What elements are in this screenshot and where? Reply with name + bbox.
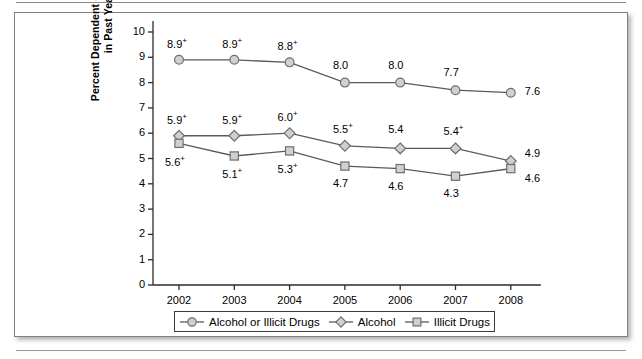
data-point-label: 8.0 (333, 59, 348, 71)
data-point-label: 7.7 (444, 66, 459, 78)
y-tick-label: 7 (109, 101, 145, 113)
legend-item-diamond: Alcohol (328, 315, 396, 329)
y-tick-label: 4 (109, 177, 145, 189)
x-tick-label: 2006 (374, 294, 426, 306)
y-tick-label: 9 (109, 50, 145, 62)
x-tick-label: 2004 (264, 294, 316, 306)
circle-marker-icon (179, 315, 205, 329)
data-point-label: 5.9+ (222, 112, 242, 126)
y-tick-label: 2 (109, 227, 145, 239)
legend-label: Alcohol or Illicit Drugs (209, 316, 320, 328)
data-point-label: 8.9+ (222, 36, 242, 50)
legend-label: Alcohol (358, 316, 396, 328)
data-point-label: 4.6 (525, 172, 540, 184)
diamond-marker-icon (328, 315, 354, 329)
page-rule-bottom (16, 350, 626, 351)
legend-item-circle: Alcohol or Illicit Drugs (179, 315, 320, 329)
legend-item-square: Illicit Drugs (404, 315, 490, 329)
data-point-label: 4.3 (444, 187, 459, 199)
data-point-label: 5.6+ (165, 154, 185, 168)
data-point-label: 4.6 (388, 180, 403, 192)
data-point-label: 5.5+ (333, 121, 353, 135)
x-tick-label: 2007 (430, 294, 482, 306)
y-tick-label: 3 (109, 202, 145, 214)
data-point-label: 8.9+ (167, 36, 187, 50)
data-point-label: 4.9 (525, 147, 540, 159)
data-point-label: 5.4 (388, 123, 403, 135)
square-marker-icon (404, 315, 430, 329)
data-point-label: 7.6 (525, 85, 540, 97)
x-tick-label: 2002 (153, 294, 205, 306)
x-tick-label: 2005 (319, 294, 371, 306)
data-point-label: 6.0+ (278, 109, 298, 123)
legend-label: Illicit Drugs (434, 316, 490, 328)
x-tick-label: 2003 (208, 294, 260, 306)
y-tick-label: 6 (109, 126, 145, 138)
data-point-label: 4.7 (333, 177, 348, 189)
data-point-label: 5.1+ (222, 166, 242, 180)
data-point-label: 5.9+ (167, 112, 187, 126)
y-tick-label: 1 (109, 253, 145, 265)
data-point-label: 8.8+ (278, 38, 298, 52)
chart-legend: Alcohol or Illicit DrugsAlcoholIllicit D… (174, 311, 495, 332)
y-tick-label: 5 (109, 152, 145, 164)
y-tick-label: 0 (109, 278, 145, 290)
data-point-label: 5.3+ (278, 161, 298, 175)
figure-panel: Percent Dependent or Abusing in Past Yea… (14, 12, 628, 337)
y-tick-label: 10 (109, 25, 145, 37)
data-point-label: 5.4+ (444, 123, 464, 137)
plot-area: Percent Dependent or Abusing in Past Yea… (15, 13, 629, 338)
data-point-label: 8.0 (388, 59, 403, 71)
x-tick-label: 2008 (485, 294, 537, 306)
y-tick-label: 8 (109, 76, 145, 88)
